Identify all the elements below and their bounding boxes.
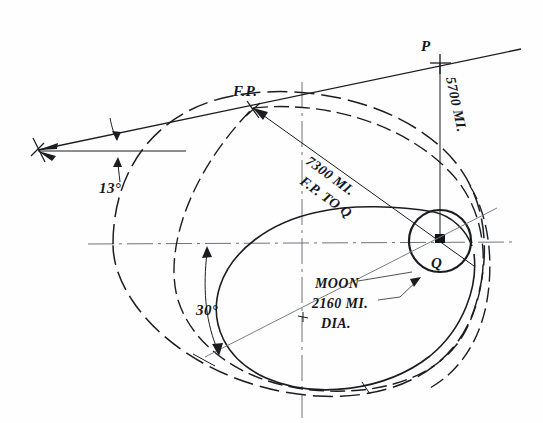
- diagram-canvas: P Q F.P. 5700 MI. 7300 MI. F.P. TO Q 13°…: [0, 0, 543, 423]
- label-angle-30: 30°: [195, 302, 218, 318]
- label-focal-point: F.P.: [232, 83, 257, 99]
- vertex-tick-1: [33, 138, 45, 162]
- label-point-p: P: [421, 38, 431, 54]
- moon-leader-line-upper: [358, 272, 412, 281]
- sight-line-group: [31, 49, 521, 182]
- angle-13-lower-arrow-icon: [113, 157, 122, 167]
- label-dim-p-to-q: 5700 MI.: [443, 76, 469, 134]
- orbit-diagram-svg: P Q F.P. 5700 MI. 7300 MI. F.P. TO Q 13°…: [0, 0, 543, 423]
- label-point-q: Q: [431, 255, 442, 271]
- fp-arrow-icon: [253, 108, 268, 120]
- angle-30-arc: [205, 253, 216, 346]
- label-moon-name: MOON: [314, 276, 360, 291]
- label-moon-dia-abbrev: DIA.: [320, 316, 351, 331]
- angle-30-upper-arrow-icon: [202, 246, 212, 258]
- label-angle-13: 13°: [99, 180, 121, 196]
- label-moon-diameter: 2160 MI.: [311, 296, 368, 311]
- orbit-tick-bottom: [362, 382, 370, 394]
- angle-13-upper-arrow-icon: [112, 131, 121, 141]
